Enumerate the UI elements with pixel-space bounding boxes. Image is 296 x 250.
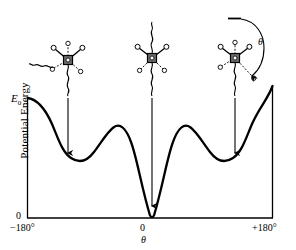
newman-center xyxy=(135,22,169,96)
y-axis-label: Potential Energy xyxy=(19,71,30,171)
theta-arc-label: θ xyxy=(258,37,263,47)
e0-subscript: 0 xyxy=(18,99,22,107)
x-tick-plus-180: +180° xyxy=(252,223,277,233)
potential-energy-figure: Potential Energy E0 0 −180° 0 +180° θ θ xyxy=(0,0,296,250)
newman-right xyxy=(218,40,256,96)
x-axis-label: θ xyxy=(141,235,146,245)
x-tick-zero: 0 xyxy=(140,223,145,233)
newman-left xyxy=(29,41,85,96)
y-axis-bottom-tick-label: 0 xyxy=(16,211,21,221)
theta-arc xyxy=(228,19,264,77)
plot-canvas xyxy=(0,0,296,250)
e0-symbol: E xyxy=(11,92,18,104)
y-axis-top-tick-label: E0 xyxy=(11,93,21,107)
x-tick-minus-180: −180° xyxy=(10,223,35,233)
potential-energy-curve xyxy=(28,86,273,217)
